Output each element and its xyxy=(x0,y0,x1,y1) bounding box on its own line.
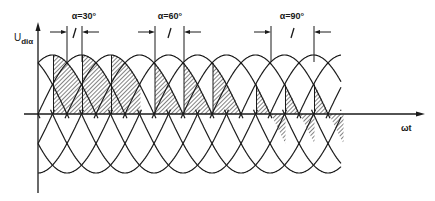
arrowhead-left-icon xyxy=(82,30,88,34)
negative-phase-curve xyxy=(38,110,113,173)
negative-phase-curve xyxy=(38,110,84,173)
alpha-marker: α=30° xyxy=(50,11,99,62)
y-axis-label: Udiα xyxy=(14,32,33,46)
negative-phase-curve xyxy=(341,110,342,111)
alpha-marker: α=90° xyxy=(254,11,331,62)
break-mark-icon xyxy=(168,28,171,38)
break-mark-icon xyxy=(73,28,76,38)
x-axis-label: ωt xyxy=(401,123,412,133)
alpha-label: α=90° xyxy=(280,11,305,21)
arrowhead-right-icon xyxy=(265,30,271,34)
negative-phase-curve xyxy=(225,110,316,173)
arrowhead-left-icon xyxy=(184,30,190,34)
negative-phase-curve xyxy=(38,110,55,144)
negative-phase-curve xyxy=(51,110,142,173)
break-mark-icon xyxy=(291,28,294,38)
alpha-markers: α=30°α=60°α=90° xyxy=(50,11,331,62)
negative-phase-curve xyxy=(138,110,229,173)
y-axis-arrow-icon xyxy=(36,22,41,31)
x-axis-arrow-icon xyxy=(416,112,425,117)
arrowhead-right-icon xyxy=(61,30,67,34)
alpha-label: α=30° xyxy=(72,11,97,21)
rectifier-voltage-waveform-diagram: α=30°α=60°α=90° Udiα ωt xyxy=(0,0,435,201)
negative-phase-curve xyxy=(109,110,200,173)
arrowhead-right-icon xyxy=(149,30,155,34)
alpha-label: α=60° xyxy=(158,11,183,21)
hatched-output-voltage-areas xyxy=(54,55,344,144)
negative-phase-curve xyxy=(196,110,287,173)
negative-phase-curve xyxy=(167,110,258,173)
alpha-marker: α=60° xyxy=(138,11,201,62)
arrowhead-left-icon xyxy=(314,30,320,34)
negative-phase-curve xyxy=(80,110,171,173)
